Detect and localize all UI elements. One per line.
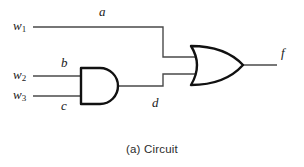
circuit-figure: w1 w2 w3 a b c d f (a) Circuit [0, 0, 304, 167]
wire-label-b: b [61, 56, 68, 69]
input-label-w1-name: w [13, 18, 22, 33]
output-label-f: f [281, 46, 285, 59]
circuit-schematic [0, 0, 304, 167]
input-label-w3: w3 [13, 88, 26, 103]
input-label-w2-name: w [13, 67, 22, 82]
wire-d [118, 74, 196, 86]
figure-caption: (a) Circuit [0, 143, 304, 155]
input-label-w3-name: w [13, 87, 22, 102]
and-gate [81, 68, 118, 104]
input-label-w2: w2 [13, 68, 26, 83]
wire-label-d: d [152, 96, 159, 109]
wire-a [33, 27, 196, 57]
input-label-w1-subscript: 1 [22, 24, 27, 34]
wire-label-c: c [61, 99, 67, 112]
input-label-w2-subscript: 2 [22, 73, 27, 83]
input-label-w3-subscript: 3 [22, 93, 27, 103]
wire-label-a: a [99, 5, 106, 18]
input-label-w1: w1 [13, 19, 26, 34]
or-gate [191, 46, 243, 85]
